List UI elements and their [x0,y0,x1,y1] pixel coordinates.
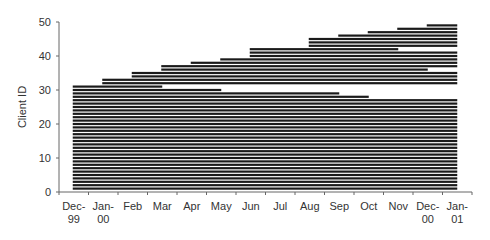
y-tick-label: 20 [39,118,51,130]
client-bar [73,89,222,91]
client-bar [161,65,457,67]
client-bar [338,35,457,37]
client-bar [73,137,458,139]
client-bar [73,157,458,159]
client-bar [309,38,458,40]
client-bar [161,69,428,71]
x-tick-label: Feb [123,200,142,212]
x-tick-label: Dec- [62,200,86,212]
x-tick-label-year: 01 [451,213,463,225]
client-bar [73,160,458,162]
x-tick-label: Jan- [93,200,115,212]
client-bar [250,52,458,54]
y-axis: 01020304050 [39,16,59,198]
x-tick-label: May [211,200,232,212]
x-tick-label: Mar [153,200,172,212]
x-tick-label: Dec- [416,200,440,212]
client-bar [73,106,458,108]
client-bar [73,109,458,111]
client-bar [427,24,458,26]
client-bar [309,41,458,43]
client-bar [368,31,458,33]
client-bar [73,181,458,183]
client-bar [73,99,458,101]
client-bar [250,55,458,57]
client-bar [73,177,458,179]
client-bar [132,72,458,74]
x-tick-label-year: 99 [68,213,80,225]
client-bar [191,62,458,64]
x-tick-label: Sep [329,200,349,212]
x-tick-label: Apr [183,200,200,212]
y-tick-label: 0 [45,186,51,198]
client-bar [73,130,458,132]
x-tick-label: Oct [360,200,377,212]
y-tick-label: 30 [39,84,51,96]
client-bars [73,24,458,189]
client-bar [397,28,457,30]
client-bar [73,171,458,173]
client-bar [220,58,457,60]
client-bar [73,92,340,94]
client-bar [73,143,458,145]
client-bar [102,79,457,81]
client-bar [73,167,458,169]
client-bar [73,126,458,128]
x-tick-label: Jul [273,200,287,212]
x-tick-label: Aug [300,200,320,212]
client-bar [73,188,458,190]
client-bar [73,150,458,152]
x-tick-label: Nov [388,200,408,212]
y-axis-title: Client ID [16,86,28,128]
x-tick-label-year: 00 [97,213,109,225]
client-bar [73,174,458,176]
client-bar [102,82,457,84]
client-bar [73,116,458,118]
chart-canvas: 01020304050 Dec-99Jan-00FebMarAprMayJunJ… [0,0,490,240]
client-bar [73,164,458,166]
x-tick-label: Jan- [447,200,469,212]
x-tick-label-year: 00 [422,213,434,225]
client-bar [309,45,458,47]
y-tick-label: 10 [39,152,51,164]
x-axis: Dec-99Jan-00FebMarAprMayJunJulAugSepOctN… [59,192,472,225]
client-bar [132,75,458,77]
client-bar [73,184,458,186]
client-bar [73,147,458,149]
x-tick-label: Jun [242,200,260,212]
y-tick-label: 50 [39,16,51,28]
client-bar [73,120,458,122]
client-bar [73,154,458,156]
client-bar [73,103,458,105]
client-bar [73,133,458,135]
client-bar [73,140,458,142]
client-timeline-chart: 01020304050 Dec-99Jan-00FebMarAprMayJunJ… [0,0,490,240]
client-bar [250,48,399,50]
client-bar [73,86,163,88]
y-tick-label: 40 [39,50,51,62]
client-bar [73,113,458,115]
client-bar [73,96,369,98]
client-bar [73,123,458,125]
